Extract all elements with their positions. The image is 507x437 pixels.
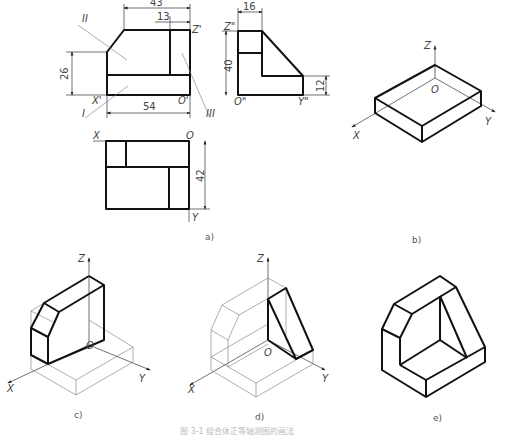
top-view: 42 X O Y a) bbox=[92, 130, 214, 242]
svg-text:X: X bbox=[92, 130, 101, 141]
svg-text:16: 16 bbox=[243, 1, 256, 12]
svg-text:Z: Z bbox=[256, 253, 265, 264]
svg-text:54: 54 bbox=[143, 101, 156, 112]
svg-text:43: 43 bbox=[150, 0, 163, 8]
svg-text:d): d) bbox=[255, 412, 264, 422]
iso-final-e: e) bbox=[382, 276, 485, 423]
svg-text:Y": Y" bbox=[298, 96, 309, 107]
svg-text:O: O bbox=[264, 347, 272, 358]
svg-text:12: 12 bbox=[315, 79, 326, 92]
svg-text:III: III bbox=[206, 108, 215, 119]
iso-base-box: Z O X Y b) bbox=[352, 40, 495, 245]
svg-text:Z": Z" bbox=[223, 21, 235, 32]
iso-step-d: Z O X Y d) bbox=[187, 253, 329, 422]
svg-text:c): c) bbox=[74, 410, 82, 420]
svg-text:42: 42 bbox=[195, 169, 206, 182]
svg-text:26: 26 bbox=[59, 67, 70, 80]
svg-text:X: X bbox=[187, 384, 196, 395]
svg-text:Z': Z' bbox=[191, 24, 202, 35]
svg-text:Y: Y bbox=[485, 116, 492, 127]
svg-text:O: O bbox=[431, 84, 439, 95]
svg-text:O: O bbox=[186, 130, 194, 141]
front-view: 43 13 26 54 Z' X' O' II I III bbox=[59, 0, 215, 119]
svg-text:O": O" bbox=[234, 96, 246, 107]
svg-text:Y: Y bbox=[322, 373, 329, 384]
svg-text:40: 40 bbox=[223, 59, 234, 72]
svg-text:a): a) bbox=[205, 232, 214, 242]
svg-text:X: X bbox=[352, 130, 361, 141]
svg-text:X: X bbox=[6, 383, 15, 394]
svg-text:b): b) bbox=[412, 235, 421, 245]
svg-text:I: I bbox=[82, 108, 85, 119]
figure-caption: 图 3-1 组合体正等轴测图的画法 bbox=[180, 426, 294, 436]
svg-text:e): e) bbox=[433, 413, 442, 423]
svg-text:Z: Z bbox=[77, 253, 86, 264]
svg-text:X': X' bbox=[91, 95, 102, 106]
svg-text:Y: Y bbox=[139, 373, 146, 384]
svg-text:Z: Z bbox=[423, 40, 432, 51]
side-view: 16 40 12 Z" O" Y" bbox=[222, 1, 330, 107]
iso-step-c: Z O X Y c) bbox=[6, 253, 150, 420]
svg-text:O': O' bbox=[178, 95, 189, 106]
svg-text:II: II bbox=[82, 13, 88, 24]
svg-text:O: O bbox=[86, 340, 94, 351]
technical-drawing: 43 13 26 54 Z' X' O' II I III 16 40 bbox=[0, 0, 507, 437]
svg-text:Y: Y bbox=[192, 212, 199, 223]
svg-text:13: 13 bbox=[157, 11, 170, 22]
